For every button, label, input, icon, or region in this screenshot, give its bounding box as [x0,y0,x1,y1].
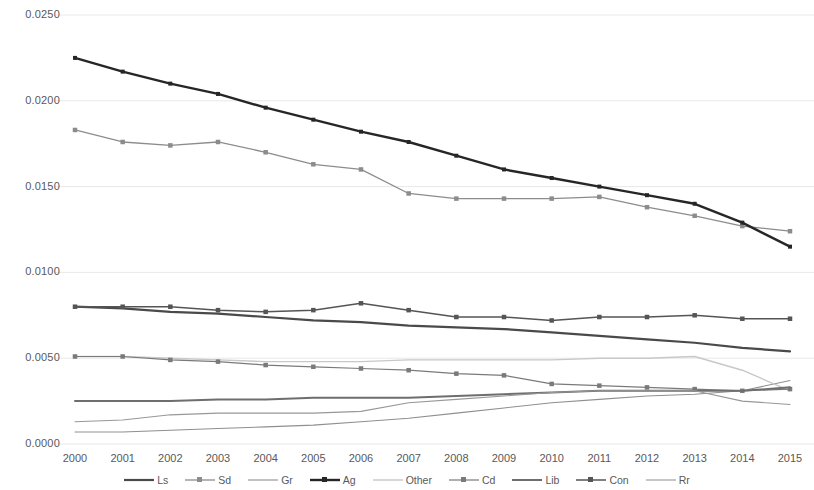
data-point-marker [597,195,602,200]
data-point-marker [692,214,697,219]
legend-swatch-icon [449,475,479,485]
data-point-marker [454,371,459,376]
data-point-marker [502,373,507,378]
data-point-marker [168,304,173,309]
data-point-marker [359,301,364,306]
data-point-marker [502,196,507,201]
y-tick-label: 0.0250 [8,8,60,20]
data-point-marker [263,363,268,368]
y-tick-label: 0.0150 [8,180,60,192]
data-point-marker [311,118,315,122]
data-point-marker [73,304,78,309]
data-point-marker [216,92,220,96]
legend-item-other[interactable]: Other [373,474,432,486]
series-line [75,58,790,247]
data-point-marker [168,143,173,148]
data-point-marker [121,70,125,74]
y-tick-label: 0.0050 [8,351,60,363]
data-point-marker [454,196,459,201]
data-point-marker [693,202,697,206]
data-point-marker [216,359,221,364]
x-tick-label: 2011 [577,452,621,464]
data-point-marker [120,140,125,145]
legend-item-gr[interactable]: Gr [248,474,293,486]
series-line [75,391,790,422]
data-point-marker [549,196,554,201]
x-tick-label: 2000 [53,452,97,464]
legend-label: Lib [545,474,559,486]
legend-item-cd[interactable]: Cd [449,474,495,486]
legend-swatch-icon [576,475,606,485]
data-point-marker [73,354,78,359]
x-tick-label: 2007 [387,452,431,464]
data-point-marker [406,191,411,196]
data-point-marker [263,310,268,315]
data-point-marker [645,315,650,320]
data-point-marker [549,382,554,387]
data-point-marker [406,308,411,313]
data-point-marker [502,315,507,320]
data-point-marker [168,358,173,363]
legend-label: Rr [679,474,690,486]
legend-item-ag[interactable]: Ag [310,474,356,486]
legend-item-ls[interactable]: Ls [124,474,168,486]
data-point-marker [216,308,221,313]
data-point-marker [407,140,411,144]
legend-label: Gr [281,474,293,486]
data-point-marker [788,316,793,321]
legend-item-lib[interactable]: Lib [512,474,559,486]
legend-label: Cd [482,474,495,486]
series-line [75,130,790,231]
data-point-marker [264,106,268,110]
legend-item-rr[interactable]: Rr [646,474,690,486]
series-layer [73,56,793,432]
legend-item-con[interactable]: Con [576,474,628,486]
data-point-marker [788,245,792,249]
series-ag [73,56,792,249]
data-point-marker [120,354,125,359]
y-tick-label: 0.0200 [8,94,60,106]
legend-label: Other [406,474,432,486]
data-point-marker [549,318,554,323]
data-point-marker [550,176,554,180]
legend-swatch-icon [248,475,278,485]
data-point-marker [120,304,125,309]
data-point-marker [168,82,172,86]
x-tick-label: 2002 [148,452,192,464]
gridlines [55,15,814,444]
x-tick-label: 2003 [196,452,240,464]
data-point-marker [73,56,77,60]
series-sd [73,128,793,234]
series-other [75,356,790,390]
legend-swatch-icon [646,475,676,485]
data-point-marker [645,205,650,210]
x-tick-label: 2004 [244,452,288,464]
legend-item-sd[interactable]: Sd [185,474,231,486]
data-point-marker [597,383,602,388]
x-tick-label: 2015 [768,452,812,464]
data-point-marker [740,221,744,225]
data-point-marker [263,150,268,155]
series-line [75,356,790,390]
data-point-marker [311,308,316,313]
data-point-marker [597,185,601,189]
line-chart: 0.02500.02000.01500.01000.00500.0000 200… [0,0,814,490]
x-tick-label: 2009 [482,452,526,464]
data-point-marker [216,140,221,145]
data-point-marker [454,154,458,158]
x-tick-label: 2012 [625,452,669,464]
legend-label: Ls [157,474,168,486]
x-tick-label: 2006 [339,452,383,464]
plot-area [0,0,814,490]
data-point-marker [359,366,364,371]
data-point-marker [645,385,650,390]
x-tick-label: 2008 [434,452,478,464]
data-point-marker [645,193,649,197]
data-point-marker [740,316,745,321]
chart-legend: LsSdGrAgOtherCdLibConRr [0,470,814,490]
data-point-marker [692,313,697,318]
x-tick-label: 2005 [291,452,335,464]
data-point-marker [406,368,411,373]
data-point-marker [311,162,316,167]
legend-swatch-icon [373,475,403,485]
